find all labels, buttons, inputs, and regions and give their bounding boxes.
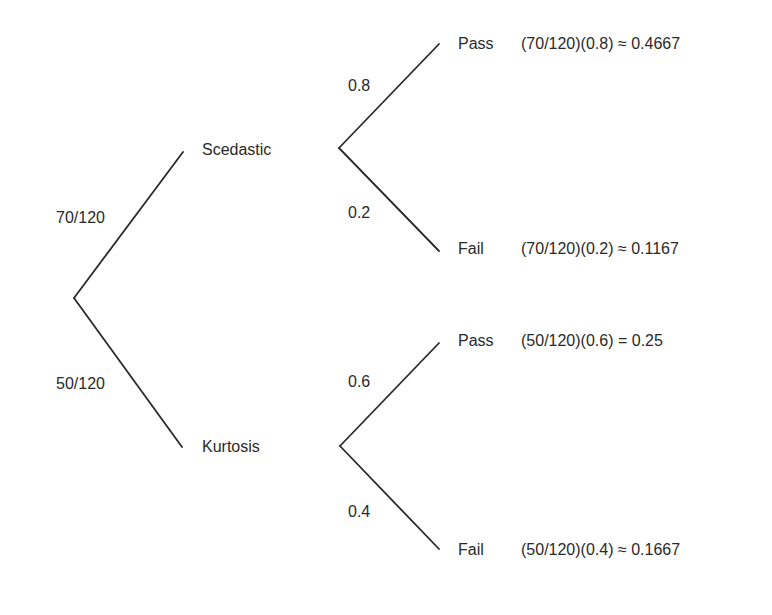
branch-scedastic-to-pass: [339, 44, 439, 148]
probability-label-scedastic-fail: 0.2: [348, 203, 370, 223]
branch-kurtosis-to-fail: [340, 446, 439, 549]
tree-diagram: [0, 0, 772, 615]
result-kurtosis-fail: (50/120)(0.4) ≈ 0.1667: [521, 540, 680, 560]
probability-label-kurtosis: 50/120: [56, 374, 105, 394]
outcome-label-kurtosis-fail: Fail: [458, 540, 484, 560]
probability-label-kurtosis-pass: 0.6: [348, 372, 370, 392]
result-scedastic-fail: (70/120)(0.2) ≈ 0.1167: [521, 239, 679, 259]
branch-root-to-kurtosis: [74, 298, 182, 447]
node-label-scedastic: Scedastic: [202, 140, 271, 160]
outcome-label-kurtosis-pass: Pass: [458, 331, 494, 351]
probability-label-scedastic: 70/120: [56, 208, 105, 228]
probability-label-scedastic-pass: 0.8: [348, 76, 370, 96]
result-kurtosis-pass: (50/120)(0.6) = 0.25: [521, 331, 663, 351]
node-label-kurtosis: Kurtosis: [202, 437, 260, 457]
result-scedastic-pass: (70/120)(0.8) ≈ 0.4667: [521, 34, 680, 54]
branch-scedastic-to-fail: [339, 148, 439, 251]
outcome-label-scedastic-pass: Pass: [458, 34, 494, 54]
outcome-label-scedastic-fail: Fail: [458, 239, 484, 259]
branch-kurtosis-to-pass: [340, 343, 439, 446]
probability-label-kurtosis-fail: 0.4: [348, 502, 370, 522]
